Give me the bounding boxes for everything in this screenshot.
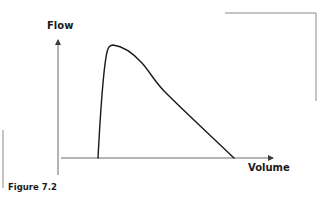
- flow-volume-curve: [98, 45, 234, 158]
- y-axis-label: Flow: [47, 21, 73, 31]
- figure-caption: Figure 7.2: [8, 183, 57, 192]
- x-axis-label: Volume: [248, 163, 290, 173]
- page-frame-top-right: [225, 13, 316, 101]
